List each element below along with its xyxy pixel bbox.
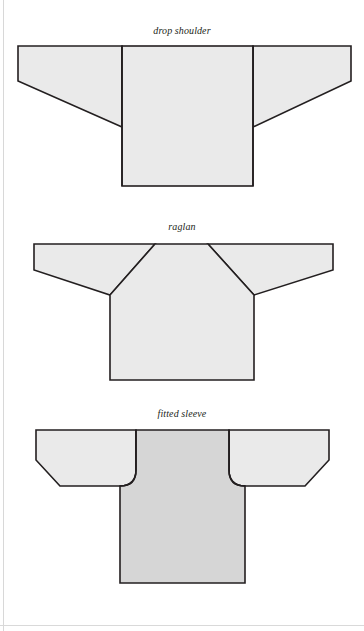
footer-rule: [0, 625, 364, 626]
right-sleeve-shape: [253, 46, 351, 127]
figure-caption-raglan: raglan: [0, 221, 364, 233]
drop-shoulder-schematic: [0, 40, 364, 205]
left-sleeve-shape: [18, 46, 122, 127]
left-sleeve-shape: [36, 430, 136, 486]
right-sleeve-shape: [229, 430, 329, 486]
body-shape: [120, 430, 245, 583]
diagram-page: drop shoulder raglan fitted sleeve: [0, 0, 364, 631]
raglan-schematic: [0, 236, 364, 388]
fitted-sleeve-schematic: [0, 424, 364, 590]
figure-caption-fitted-sleeve: fitted sleeve: [0, 408, 364, 420]
figure-caption-drop-shoulder: drop shoulder: [0, 25, 364, 37]
body-shape: [122, 46, 253, 186]
